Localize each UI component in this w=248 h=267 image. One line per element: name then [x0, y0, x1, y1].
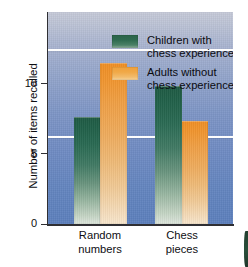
legend-label-children-line1: Children with: [147, 34, 233, 47]
legend-swatch-orange-icon: [112, 67, 138, 80]
bar-chart-figure: Number of items recalled: [0, 0, 248, 267]
plot-area: Children with chess experience Adults wi…: [48, 12, 233, 224]
legend-label-adults-line2: chess experience: [147, 79, 233, 92]
bar-top-highlight: [100, 63, 127, 64]
y-tick-label-0: 0: [5, 217, 37, 229]
y-tick-mark-0: [41, 224, 48, 225]
x-axis-label-chess-pieces-line1: Chess: [137, 229, 227, 243]
bar-random-numbers-children: [74, 117, 100, 224]
bar-chess-pieces-adults: [182, 121, 208, 224]
y-axis-title: Number of items recalled: [27, 31, 39, 221]
y-tick-mark-10: [41, 83, 48, 84]
bar-texture: [74, 117, 100, 224]
legend-item-children: Children with chess experience: [112, 34, 233, 60]
legend-label-children-line2: chess experience: [147, 47, 233, 60]
bar-chess-pieces-children: [155, 86, 182, 224]
x-axis-label-random-numbers-line2: numbers: [55, 243, 145, 257]
legend-item-adults: Adults without chess experience: [112, 66, 233, 92]
legend-label-children: Children with chess experience: [147, 34, 233, 60]
y-tick-label-5: 5: [5, 147, 37, 159]
page-corner-artifact: [244, 231, 248, 267]
x-axis-label-chess-pieces: Chess pieces: [137, 229, 227, 256]
y-tick-label-10: 10: [5, 77, 37, 89]
y-axis-line: [47, 12, 48, 225]
legend-label-adults: Adults without chess experience: [147, 66, 233, 92]
legend-swatch-green-icon: [112, 35, 138, 48]
bar-top-highlight: [74, 117, 100, 118]
x-axis-label-random-numbers-line1: Random: [55, 229, 145, 243]
bar-texture: [182, 121, 208, 224]
y-tick-mark-5: [41, 153, 48, 154]
x-axis-line: [47, 224, 234, 226]
bar-top-highlight: [182, 121, 208, 122]
bar-texture: [155, 86, 182, 224]
x-axis-label-chess-pieces-line2: pieces: [137, 243, 227, 257]
x-axis-label-random-numbers: Random numbers: [55, 229, 145, 256]
legend-label-adults-line1: Adults without: [147, 66, 233, 79]
